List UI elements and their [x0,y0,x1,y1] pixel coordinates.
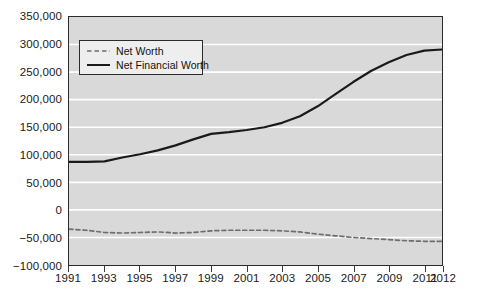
x-tick-label: 2012 [430,272,456,284]
y-tick-label: 200,000 [20,93,62,105]
x-tick-label: 2007 [341,272,367,284]
x-tick-label: 1999 [198,272,224,284]
y-tick-label: −50,000 [19,232,62,244]
y-tick-label: 0 [56,204,63,216]
chart-legend: Net Worth Net Financial Worth [79,40,203,75]
x-tick-label: 1997 [162,272,188,284]
y-tick-label: 250,000 [20,66,62,78]
x-tick-label: 1995 [126,272,152,284]
y-tick-label: 300,000 [20,38,62,50]
y-tick-label: 150,000 [20,121,62,133]
solid-line-icon [87,60,110,70]
x-tick-label: 1991 [55,272,81,284]
legend-item-net-financial-worth: Net Financial Worth [87,58,202,72]
x-axis-tick-labels: 1991199319951997199920012003200520072009… [0,272,485,292]
legend-label: Net Financial Worth [116,59,209,71]
y-tick-label: 50,000 [26,177,62,189]
x-tick-label: 2001 [234,272,260,284]
legend-label: Net Worth [116,45,164,57]
series-line [69,229,442,241]
x-tick-label: 2003 [269,272,295,284]
x-tick-label: 1993 [91,272,117,284]
legend-item-net-worth: Net Worth [87,44,202,58]
y-tick-label: −100,000 [13,260,62,272]
x-tick-label: 2005 [305,272,331,284]
x-tick-label: 2009 [376,272,402,284]
y-axis-tick-labels: −100,000−50,000050,000100,000150,000200,… [0,16,62,266]
y-tick-label: 350,000 [20,10,62,22]
y-tick-label: 100,000 [20,149,62,161]
dashed-line-icon [87,46,110,56]
chart-figure: −100,000−50,000050,000100,000150,000200,… [0,0,485,302]
